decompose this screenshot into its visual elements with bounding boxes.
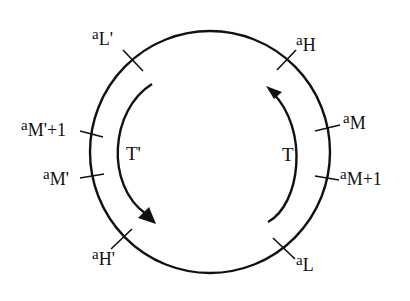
label-aMp1: aM'+1	[21, 121, 66, 139]
label-sub: L'	[99, 29, 113, 49]
label-base: a	[296, 32, 303, 48]
label-sub: H	[303, 35, 316, 55]
label-sub: H'	[99, 249, 115, 269]
label-base: a	[21, 117, 28, 133]
label-sub: M+1	[347, 169, 382, 189]
label-T: T	[282, 145, 294, 164]
label-base: a	[340, 166, 347, 182]
label-sub: M	[350, 113, 366, 133]
label-aHp: aH'	[92, 250, 115, 268]
label-base: a	[343, 110, 350, 126]
label-aMp: aM'	[43, 170, 69, 188]
label-aM1: aM+1	[340, 170, 382, 188]
label-base: a	[92, 246, 99, 262]
label-aLp: aL'	[92, 30, 113, 48]
arrowhead-T-icon	[266, 86, 282, 99]
label-aM: aM	[343, 114, 366, 132]
label-sub: M'+1	[28, 120, 66, 140]
label-base: a	[43, 166, 50, 182]
label-aL: aL	[296, 256, 314, 274]
ring-diagram	[0, 0, 410, 301]
label-sub: L	[303, 255, 314, 275]
label-sub: M'	[50, 169, 69, 189]
label-T-prime: T'	[126, 144, 141, 163]
label-base: a	[92, 26, 99, 42]
label-aH: aH	[296, 36, 316, 54]
label-base: a	[296, 252, 303, 268]
